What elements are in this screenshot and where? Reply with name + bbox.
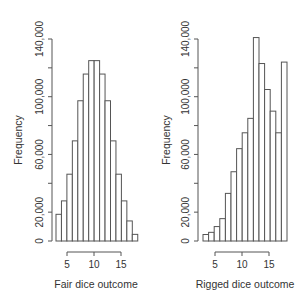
x-tick-label: 10 xyxy=(236,259,248,270)
histogram-bar xyxy=(225,193,231,241)
histogram-bar xyxy=(281,62,287,241)
histogram-canvas: 020,00060,000100,000140,000 51015 Freque… xyxy=(0,0,307,302)
y-tick-label: 0 xyxy=(180,238,191,244)
histogram-bar xyxy=(237,149,243,241)
y-tick-label: 100,000 xyxy=(180,78,191,115)
histogram-bar xyxy=(259,64,265,241)
histogram-figure: 020,00060,000100,000140,000 51015 Freque… xyxy=(0,0,307,302)
rigged-dice-bars xyxy=(203,38,287,241)
y-tick-label: 20,000 xyxy=(180,196,191,227)
histogram-bar xyxy=(132,234,137,241)
histogram-bar xyxy=(72,141,77,241)
rigged-dice-x-axis: 51015 xyxy=(212,252,275,270)
histogram-bar xyxy=(61,201,66,241)
y-tick-label: 20,000 xyxy=(34,196,45,227)
histogram-bar xyxy=(220,219,226,241)
y-tick-label: 140,000 xyxy=(180,20,191,57)
x-tick-label: 15 xyxy=(263,259,275,270)
histogram-bar xyxy=(83,74,88,241)
rigged-dice-y-axis: 020,00060,000100,000140,000 xyxy=(180,20,198,243)
histogram-bar xyxy=(94,61,99,241)
histogram-bar xyxy=(67,174,72,241)
histogram-bar xyxy=(105,101,110,241)
x-tick-label: 5 xyxy=(64,259,70,270)
fair-dice-y-axis: 020,00060,000100,000140,000 xyxy=(34,20,52,243)
fair-dice-x-axis: 51015 xyxy=(64,252,127,270)
histogram-bar xyxy=(56,214,61,241)
histogram-bar xyxy=(116,174,121,241)
fair-dice-y-axis-title: Frequency xyxy=(12,114,24,164)
histogram-bar xyxy=(78,101,83,241)
y-tick-label: 60,000 xyxy=(180,139,191,170)
histogram-bar xyxy=(203,235,209,241)
fair-dice-x-axis-title: Fair dice outcome xyxy=(54,278,138,290)
histogram-bar xyxy=(253,38,259,241)
histogram-bar xyxy=(100,74,105,241)
rigged-dice-y-axis-title: Frequency xyxy=(160,114,172,164)
y-tick-label: 140,000 xyxy=(34,20,45,57)
y-tick-label: 60,000 xyxy=(34,139,45,170)
histogram-bar xyxy=(231,172,237,241)
fair-dice-histogram: 020,00060,000100,000140,000 51015 Freque… xyxy=(12,20,138,290)
histogram-bar xyxy=(121,201,126,241)
histogram-bar xyxy=(265,90,271,242)
histogram-bar xyxy=(276,133,282,241)
y-tick-label: 0 xyxy=(34,238,45,244)
x-tick-label: 10 xyxy=(88,259,100,270)
histogram-bar xyxy=(127,221,132,241)
histogram-bar xyxy=(248,118,254,241)
histogram-bar xyxy=(214,227,220,241)
histogram-bar xyxy=(111,141,116,241)
x-tick-label: 15 xyxy=(115,259,127,270)
y-tick-label: 100,000 xyxy=(34,78,45,115)
x-tick-label: 5 xyxy=(212,259,218,270)
rigged-dice-histogram: 020,00060,000100,000140,000 51015 Freque… xyxy=(160,20,294,290)
fair-dice-bars xyxy=(56,61,138,241)
histogram-bar xyxy=(270,111,276,241)
histogram-bar xyxy=(209,232,215,241)
histogram-bar xyxy=(89,61,94,241)
rigged-dice-x-axis-title: Rigged dice outcome xyxy=(196,278,295,290)
histogram-bar xyxy=(242,133,248,241)
